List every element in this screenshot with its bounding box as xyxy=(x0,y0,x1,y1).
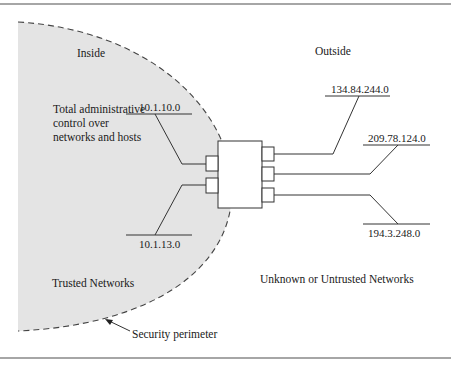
ip-10-1-13-0: 10.1.13.0 xyxy=(139,238,180,250)
firewall-box xyxy=(218,141,262,208)
untrusted-networks-label: Unknown or Untrusted Networks xyxy=(260,272,414,286)
link-209-78-124-0 xyxy=(274,145,398,174)
link-194-3-248-0 xyxy=(274,195,398,224)
admin-control-label: Total administrative control over networ… xyxy=(53,102,153,144)
security-perimeter-label: Security perimeter xyxy=(132,327,217,341)
outside-label: Outside xyxy=(315,44,351,58)
inside-label: Inside xyxy=(77,46,105,60)
ip-194-3-248-0: 194.3.248.0 xyxy=(368,227,420,239)
network-diagram xyxy=(0,0,451,365)
ip-10-1-10-0: 10.1.10.0 xyxy=(139,101,180,113)
port-outside-1 xyxy=(262,147,274,161)
port-outside-2 xyxy=(262,167,274,181)
trusted-networks-label: Trusted Networks xyxy=(52,276,134,290)
port-inside-1 xyxy=(206,156,218,171)
port-inside-2 xyxy=(206,178,218,193)
port-outside-3 xyxy=(262,188,274,202)
ip-134-84-244-0: 134.84.244.0 xyxy=(331,83,389,95)
link-134-84-244-0 xyxy=(274,96,359,154)
ip-209-78-124-0: 209.78.124.0 xyxy=(368,132,426,144)
